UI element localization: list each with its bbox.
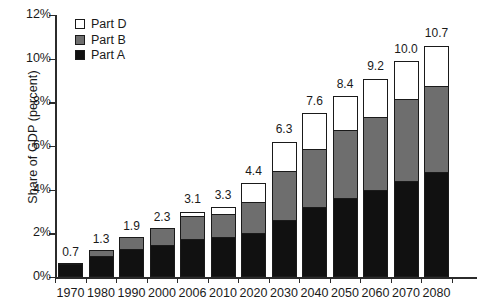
x-tick-mark [452, 277, 453, 283]
x-tick-label-2006: 2006 [179, 286, 207, 300]
y-tick-label: 12% [26, 7, 51, 21]
bar-segment-part-a [363, 190, 388, 277]
bar-1970[interactable]: 0.7 [58, 263, 83, 277]
x-tick-label-2020: 2020 [240, 286, 268, 300]
x-tick-label-2050: 2050 [331, 286, 359, 300]
bar-segment-part-b [302, 149, 327, 208]
x-tick-mark [116, 277, 117, 283]
y-axis-line [55, 15, 57, 277]
x-tick-mark [177, 277, 178, 283]
x-tick-label-2080: 2080 [423, 286, 451, 300]
bar-value-label: 4.4 [245, 164, 262, 178]
legend-item-part-b[interactable]: Part B [75, 34, 126, 47]
bar-2080[interactable]: 10.7 [424, 46, 449, 277]
bar-value-label: 10.7 [425, 26, 448, 40]
legend-label: Part A [91, 49, 125, 62]
legend-label: Part B [91, 34, 126, 47]
bar-segment-part-d [394, 61, 419, 100]
x-tick-mark [360, 277, 361, 283]
bar-segment-part-d [241, 183, 266, 203]
bar-segment-part-d [363, 79, 388, 118]
chart-legend: Part DPart BPart A [75, 18, 126, 62]
bar-segment-part-a [394, 181, 419, 277]
x-tick-mark [86, 277, 87, 283]
bar-2000[interactable]: 2.3 [150, 228, 175, 277]
x-tick-mark [238, 277, 239, 283]
bar-segment-part-a [119, 249, 144, 277]
bar-segment-part-b [272, 171, 297, 221]
bar-segment-part-d [424, 46, 449, 87]
bar-segment-part-d [333, 96, 358, 131]
bar-2020[interactable]: 4.4 [241, 183, 266, 277]
bar-value-label: 3.1 [184, 192, 201, 206]
x-tick-label-2070: 2070 [392, 286, 420, 300]
bar-2050[interactable]: 8.4 [333, 96, 358, 277]
bar-segment-part-a [89, 256, 114, 277]
bar-value-label: 2.3 [154, 210, 171, 224]
legend-swatch-icon [75, 50, 85, 60]
bar-value-label: 8.4 [337, 77, 354, 91]
x-tick-label-1990: 1990 [118, 286, 146, 300]
bar-segment-part-b [424, 86, 449, 173]
bar-2060[interactable]: 9.2 [363, 79, 388, 277]
y-tick-label: 10% [26, 51, 51, 65]
legend-item-part-a[interactable]: Part A [75, 49, 126, 62]
legend-item-part-d[interactable]: Part D [75, 18, 126, 31]
x-tick-mark [391, 277, 392, 283]
x-tick-label-1980: 1980 [87, 286, 115, 300]
x-tick-mark [299, 277, 300, 283]
legend-label: Part D [91, 18, 126, 31]
bar-value-label: 1.3 [93, 232, 110, 246]
bar-1980[interactable]: 1.3 [89, 250, 114, 277]
bar-value-label: 6.3 [276, 122, 293, 136]
y-tick-label: 2% [33, 225, 51, 239]
x-tick-mark [208, 277, 209, 283]
y-tick-label: 0% [33, 269, 51, 283]
bar-2040[interactable]: 7.6 [302, 113, 327, 277]
y-axis-title: Share of GDP (percent) [26, 42, 40, 232]
y-tick-label: 6% [33, 138, 51, 152]
y-tick-label: 8% [33, 94, 51, 108]
bar-segment-part-b [150, 228, 175, 247]
bar-value-label: 3.3 [215, 188, 232, 202]
bar-segment-part-a [150, 245, 175, 277]
bar-segment-part-a [424, 172, 449, 277]
bar-segment-part-a [272, 220, 297, 277]
x-tick-label-2060: 2060 [362, 286, 390, 300]
bar-segment-part-a [333, 198, 358, 277]
legend-swatch-icon [75, 19, 85, 29]
bar-segment-part-b [333, 130, 358, 200]
y-tick-label: 4% [33, 182, 51, 196]
bar-segment-part-a [180, 239, 205, 277]
x-tick-mark [421, 277, 422, 283]
x-tick-mark [269, 277, 270, 283]
bar-2070[interactable]: 10.0 [394, 61, 419, 277]
stacked-bar-chart: Share of GDP (percent) 0%2%4%6%8%10%12% … [0, 0, 482, 305]
bar-segment-part-d [302, 113, 327, 150]
bar-segment-part-a [241, 233, 266, 277]
bar-segment-part-b [180, 216, 205, 240]
bar-1990[interactable]: 1.9 [119, 237, 144, 277]
x-tick-mark [147, 277, 148, 283]
x-tick-label-2010: 2010 [209, 286, 237, 300]
x-axis-line [55, 277, 477, 279]
x-tick-label-2040: 2040 [301, 286, 329, 300]
x-tick-label-2030: 2030 [270, 286, 298, 300]
x-tick-mark [55, 277, 56, 283]
bar-2030[interactable]: 6.3 [272, 142, 297, 277]
bar-2006[interactable]: 3.1 [180, 212, 205, 277]
bar-2010[interactable]: 3.3 [211, 207, 236, 277]
bar-value-label: 7.6 [306, 94, 323, 108]
bar-segment-part-b [211, 214, 236, 238]
bar-segment-part-b [394, 99, 419, 182]
bar-value-label: 0.7 [62, 245, 79, 259]
bar-value-label: 9.2 [367, 59, 384, 73]
x-tick-mark [330, 277, 331, 283]
legend-swatch-icon [75, 35, 85, 45]
bar-segment-part-a [58, 264, 83, 277]
bar-value-label: 10.0 [394, 42, 417, 56]
bar-segment-part-d [272, 142, 297, 173]
bar-segment-part-b [241, 202, 266, 235]
bar-value-label: 1.9 [123, 219, 140, 233]
bar-segment-part-b [363, 117, 388, 191]
